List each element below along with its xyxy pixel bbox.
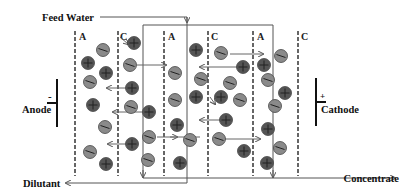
concentrate-label: Concentrate xyxy=(344,173,400,184)
cation-icon xyxy=(237,61,250,74)
cation-icon xyxy=(190,44,203,57)
anion-icon xyxy=(262,74,275,87)
cation-icon xyxy=(238,145,251,158)
feed-water-label: Feed Water xyxy=(42,12,94,23)
cation-icon xyxy=(143,106,156,119)
cation-icon xyxy=(279,87,292,100)
anion-icon xyxy=(124,59,137,72)
membrane-label-4: C xyxy=(211,31,218,42)
cation-icon xyxy=(262,123,275,136)
anion-icon xyxy=(125,101,138,114)
anion-icon xyxy=(195,73,208,86)
anion-icon xyxy=(84,76,97,89)
cation-icon xyxy=(128,37,141,50)
anion-icon xyxy=(99,121,112,134)
anion-icon xyxy=(269,100,282,113)
anion-icon xyxy=(84,146,97,159)
cation-icon xyxy=(82,57,95,70)
anion-icon xyxy=(184,134,197,147)
cation-icon xyxy=(100,158,113,171)
cation-icon xyxy=(215,91,228,104)
cathode-electrode xyxy=(316,78,326,126)
membrane-label-5: A xyxy=(257,31,265,42)
anode-label: Anode xyxy=(22,104,52,115)
cation-icon xyxy=(87,99,100,112)
anion-icon xyxy=(234,94,247,107)
cation-icon xyxy=(171,119,184,132)
cation-icon xyxy=(258,59,271,72)
anion-icon xyxy=(143,131,156,144)
anion-icon xyxy=(142,154,155,167)
anion-icon xyxy=(224,77,237,90)
cation-icon xyxy=(100,67,113,80)
anion-icon xyxy=(275,50,288,63)
cathode-label: Cathode xyxy=(321,104,359,115)
anion-icon xyxy=(213,133,226,146)
anion-icon xyxy=(169,94,182,107)
membrane-label-1: A xyxy=(79,31,87,42)
cation-icon xyxy=(126,138,139,151)
cation-icon xyxy=(190,91,203,104)
dilutant-label: Dilutant xyxy=(23,178,61,189)
membrane-label-6: C xyxy=(301,31,308,42)
cation-icon xyxy=(126,82,139,95)
membrane-label-3: A xyxy=(168,31,176,42)
cation-icon xyxy=(261,157,274,170)
anode-sign: - xyxy=(48,90,52,102)
diagram-canvas: Feed Water Dilutant Concentrate A C A C … xyxy=(0,0,404,195)
electrodialysis-diagram: Feed Water Dilutant Concentrate A C A C … xyxy=(0,0,404,195)
cathode-sign: + xyxy=(320,91,325,101)
anion-icon xyxy=(97,44,110,57)
anion-icon xyxy=(274,142,287,155)
cation-icon xyxy=(174,157,187,170)
anion-icon xyxy=(169,67,182,80)
anion-icon xyxy=(215,47,228,60)
cation-icon xyxy=(220,114,233,127)
anode-electrode xyxy=(47,79,57,127)
